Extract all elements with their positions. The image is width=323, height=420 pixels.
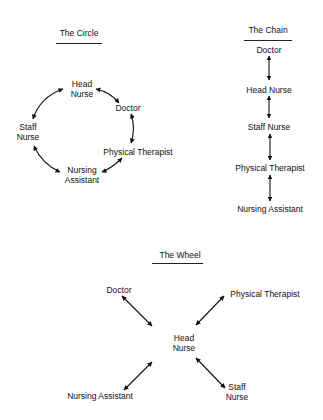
wheel-arrow-doctor <box>122 296 152 326</box>
wheel-arrow-physicaltherapist <box>196 296 224 325</box>
wheel-title-underline <box>152 263 203 264</box>
circle-arrow-doctor-physicaltherapist <box>131 114 134 143</box>
wheel-title: The Wheel <box>154 250 206 260</box>
chain-node-nursing-assistant: Nursing Assistant <box>225 204 315 214</box>
circle-arrow-staffnurse-headnurse <box>33 89 63 119</box>
wheel-node-nursing-assistant: Nursing Assistant <box>60 391 140 401</box>
circle-node-physical-therapist: Physical Therapist <box>100 147 176 157</box>
circle-node-doctor: Doctor <box>108 103 148 113</box>
chain-node-physical-therapist: Physical Therapist <box>225 163 315 173</box>
chain-title: The Chain <box>243 25 293 35</box>
chain-title-underline <box>244 40 292 41</box>
circle-arrow-nursingassistant-staffnurse <box>34 146 60 172</box>
wheel-node-staff-nurse: Staff Nurse <box>220 382 254 402</box>
circle-node-staff-nurse: Staff Nurse <box>10 122 46 142</box>
circle-node-head-nurse: Head Nurse <box>62 79 102 99</box>
chain-node-staff-nurse: Staff Nurse <box>229 122 309 132</box>
circle-arrow-physicaltherapist-nursingassistant <box>102 158 122 172</box>
circle-node-nursing-assistant: Nursing Assistant <box>60 165 104 185</box>
wheel-node-physical-therapist: Physical Therapist <box>225 289 305 299</box>
circle-title: The Circle <box>56 28 102 38</box>
chain-node-head-nurse: Head Nurse <box>229 85 309 95</box>
chain-node-doctor: Doctor <box>229 45 309 55</box>
wheel-node-doctor: Doctor <box>99 285 139 295</box>
wheel-arrow-nursingassistant <box>124 362 152 390</box>
circle-title-underline <box>56 43 102 44</box>
wheel-node-head-nurse: Head Nurse <box>164 333 204 353</box>
